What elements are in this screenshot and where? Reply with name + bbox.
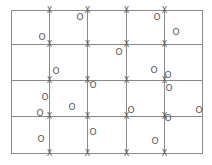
o-marker: O <box>36 108 43 118</box>
x-marker: X <box>124 149 130 158</box>
o-marker: O <box>150 65 157 75</box>
o-marker: O <box>151 136 158 146</box>
o-marker: O <box>164 70 171 80</box>
o-marker: O <box>115 47 122 57</box>
o-marker: O <box>76 12 83 22</box>
x-marker: X <box>85 112 91 121</box>
o-marker: O <box>172 27 179 37</box>
o-marker: O <box>153 12 160 22</box>
o-marker: O <box>89 80 96 90</box>
grid-diagram: XXXXXXXXXXXXXXXXXXXX OOOOOOOOOOOOOOOOOOO <box>0 0 212 165</box>
x-marker: X <box>162 149 168 158</box>
o-marker: O <box>165 83 172 93</box>
x-marker: X <box>85 6 91 15</box>
x-marker: X <box>124 76 130 85</box>
o-marker: O <box>195 105 202 115</box>
o-marker: O <box>89 127 96 137</box>
x-marker: X <box>162 40 168 49</box>
x-marker: X <box>162 6 168 15</box>
o-marker: O <box>37 134 44 144</box>
o-marker: O <box>41 92 48 102</box>
x-marker: X <box>124 6 130 15</box>
background <box>0 0 212 165</box>
x-marker: X <box>47 40 53 49</box>
x-marker: X <box>85 149 91 158</box>
x-marker: X <box>47 112 53 121</box>
x-marker: X <box>47 76 53 85</box>
o-marker: O <box>68 102 75 112</box>
x-marker: X <box>85 40 91 49</box>
x-marker: X <box>47 6 53 15</box>
o-marker: O <box>38 32 45 42</box>
o-marker: O <box>164 113 171 123</box>
x-marker: X <box>47 149 53 158</box>
o-marker: O <box>127 105 134 115</box>
o-marker: O <box>52 66 59 76</box>
x-marker: X <box>124 40 130 49</box>
